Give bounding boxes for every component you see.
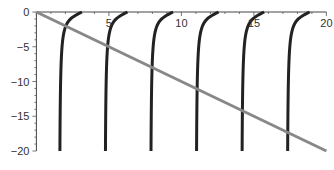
y-tick-label: −15	[11, 110, 30, 122]
tan-branch-curve	[242, 12, 264, 151]
tan-branch-curve	[288, 12, 310, 151]
y-tick-label: −10	[11, 76, 30, 88]
line-y-equals-negative-x	[36, 12, 326, 151]
y-tick-label: 0	[23, 6, 29, 18]
tan-branch-curve	[105, 12, 127, 151]
x-tick-label: 15	[248, 17, 260, 29]
x-tick-label: 20	[320, 17, 332, 29]
x-tick-label: 5	[106, 17, 112, 29]
tan-branch-curve	[197, 12, 219, 151]
x-tick-label: 10	[175, 17, 187, 29]
chart: 0−5−10−15−205101520	[0, 0, 334, 170]
negative-x-line-series	[36, 12, 326, 151]
tan-branch-curve	[151, 12, 173, 151]
y-tick-label: −5	[17, 41, 30, 53]
y-tick-label: −20	[11, 145, 30, 157]
